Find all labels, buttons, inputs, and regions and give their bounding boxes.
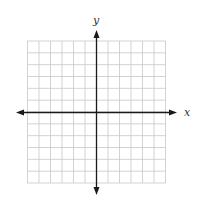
x-axis-right-arrow-icon [169,110,177,116]
y-axis-down-arrow-icon [94,187,100,195]
y-axis-label: y [92,14,100,27]
coordinate-plane: y x [0,0,199,204]
x-axis-left-arrow-icon [16,110,24,116]
y-axis-up-arrow-icon [94,30,100,38]
x-axis-label: x [184,106,191,119]
